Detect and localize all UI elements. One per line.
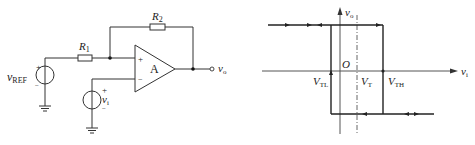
vth-label: VTH <box>388 75 404 89</box>
output-terminal-icon <box>210 67 214 71</box>
resistor-r1 <box>78 55 92 61</box>
opamp: A + − <box>135 45 175 92</box>
x-axis-arrow-icon <box>450 69 458 74</box>
arrow-right-icon <box>285 23 290 27</box>
resistor-r2 <box>150 24 165 30</box>
opamp-label: A <box>150 62 159 76</box>
y-axis-arrow-icon <box>338 7 343 15</box>
arrow-left-icon <box>317 23 322 27</box>
vref-label: vREF <box>7 70 28 85</box>
x-axis-label: vi <box>461 65 468 79</box>
hysteresis-graph: vi vo O <box>262 6 468 134</box>
ground-icon <box>39 106 51 111</box>
y-axis-label: vo <box>345 6 354 20</box>
vt-label: VT <box>361 75 373 89</box>
opamp-plus-input: + <box>138 54 143 64</box>
vref-plus-sign: + <box>36 62 41 72</box>
comparator-circuit: + − vREF R1 R2 A + − <box>7 10 227 133</box>
arrow-left-icon <box>362 112 367 116</box>
hysteresis-loop <box>268 23 434 116</box>
arrow-right-icon <box>376 23 381 27</box>
origin-label: O <box>342 58 350 70</box>
vref-minus-sign: − <box>35 82 39 90</box>
arrow-right-icon <box>307 23 312 27</box>
arrow-right-icon <box>414 112 419 116</box>
vi-label: vi <box>102 93 109 107</box>
arrow-left-icon <box>404 112 409 116</box>
r1-label: R1 <box>78 40 90 54</box>
r2-label: R2 <box>151 10 163 24</box>
vi-source: + − vi <box>83 85 109 133</box>
diagram-canvas: + − vREF R1 R2 A + − <box>0 0 475 145</box>
vo-output-label: vo <box>218 62 227 76</box>
ground-icon <box>86 128 98 133</box>
junction-node <box>191 67 195 71</box>
opamp-minus-input: − <box>138 75 143 84</box>
threshold-node <box>381 69 384 72</box>
vi-minus-sign: − <box>102 105 106 113</box>
vtl-label: VTL <box>313 75 328 89</box>
vref-source: + − vREF <box>7 58 54 111</box>
